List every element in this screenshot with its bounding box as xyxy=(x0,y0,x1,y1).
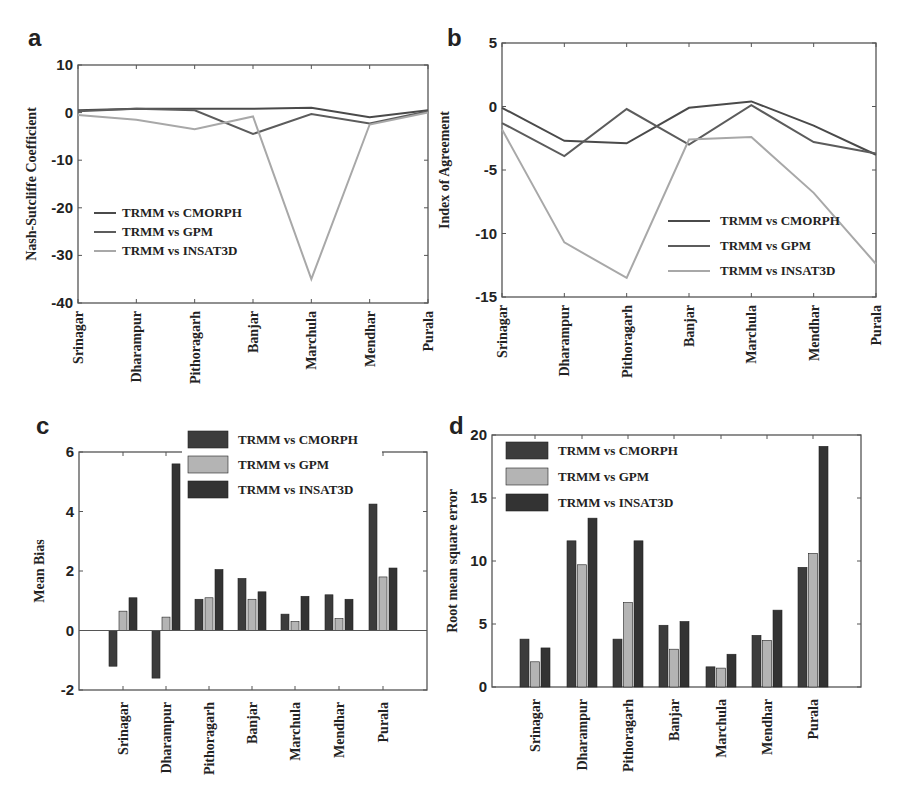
y-tick-label: -40 xyxy=(51,294,73,311)
y-tick-label: 0 xyxy=(489,98,497,115)
x-category-label-srinagar: Srinagar xyxy=(71,311,86,364)
x-category-label-banjar: Banjar xyxy=(667,699,682,741)
panel-b-index-of-agreement: b 50-5-10-15Index of AgreementSrinagarDh… xyxy=(451,0,902,400)
bar-trmm-vs-insat3d-pithoragarh xyxy=(215,570,223,631)
y-tick-label: -20 xyxy=(51,199,73,216)
bar-trmm-vs-gpm-banjar xyxy=(248,599,256,630)
bar-trmm-vs-cmorph-pithoragarh xyxy=(613,639,622,687)
bar-trmm-vs-insat3d-banjar xyxy=(258,592,266,631)
y-tick-label: 5 xyxy=(479,615,487,632)
x-category-label-mendhar: Mendhar xyxy=(760,699,775,755)
x-category-label-marchula: Marchula xyxy=(714,699,729,758)
x-category-label-marchula: Marchula xyxy=(288,702,303,761)
bar-trmm-vs-cmorph-srinagar xyxy=(109,631,117,667)
x-category-label-dharampur: Dharampur xyxy=(159,702,174,774)
bar-trmm-vs-cmorph-banjar xyxy=(659,625,668,687)
x-category-label-srinagar: Srinagar xyxy=(495,305,510,358)
y-axis-title: Nash-Sutcliffe Coefficient xyxy=(24,107,39,261)
x-category-label-pithoragarh: Pithoragarh xyxy=(188,311,203,384)
legend-swatch-trmm-vs-gpm xyxy=(506,468,548,485)
x-category-label-dharampur: Dharampur xyxy=(575,699,590,771)
bar-trmm-vs-gpm-dharampur xyxy=(162,617,170,630)
panel-c-mean-bias: c 6420-2Mean BiasSrinagarDharampurPithor… xyxy=(0,410,451,812)
bar-trmm-vs-gpm-pithoragarh xyxy=(205,598,213,631)
y-tick-label: -5 xyxy=(484,161,497,178)
y-axis-title: Root mean square error xyxy=(445,489,460,633)
x-category-label-banjar: Banjar xyxy=(682,305,697,347)
legend-label-trmm-vs-insat3d: TRMM vs INSAT3D xyxy=(720,263,835,278)
bar-trmm-vs-gpm-dharampur xyxy=(578,565,587,687)
line-chart-nash-sutcliffe: 100-10-20-30-40Nash-Sutcliffe Coefficien… xyxy=(0,0,451,400)
bar-trmm-vs-insat3d-dharampur xyxy=(588,518,597,687)
bar-trmm-vs-cmorph-marchula xyxy=(706,667,715,687)
bar-trmm-vs-cmorph-pithoragarh xyxy=(195,599,203,630)
series-line-trmm-vs-cmorph xyxy=(502,101,876,154)
bar-trmm-vs-cmorph-srinagar xyxy=(520,639,529,687)
y-tick-label: 5 xyxy=(489,34,497,51)
bar-trmm-vs-insat3d-purala xyxy=(389,568,397,630)
legend-swatch-trmm-vs-insat3d xyxy=(188,481,228,498)
legend-swatch-trmm-vs-cmorph xyxy=(188,431,228,448)
legend-label-trmm-vs-insat3d: TRMM vs INSAT3D xyxy=(238,482,353,497)
legend-label-trmm-vs-insat3d: TRMM vs INSAT3D xyxy=(122,243,237,258)
bar-trmm-vs-gpm-mendhar xyxy=(763,640,772,687)
x-category-label-dharampur: Dharampur xyxy=(129,311,144,383)
y-tick-label: 0 xyxy=(66,622,74,639)
legend-label-trmm-vs-cmorph: TRMM vs CMORPH xyxy=(720,213,840,228)
bar-trmm-vs-insat3d-srinagar xyxy=(129,598,137,631)
bar-trmm-vs-gpm-pithoragarh xyxy=(624,603,633,687)
bar-trmm-vs-cmorph-marchula xyxy=(281,614,289,630)
x-category-label-mendhar: Mendhar xyxy=(807,305,822,361)
plot-frame xyxy=(502,43,876,297)
x-category-label-mendhar: Mendhar xyxy=(363,311,378,367)
y-tick-label: 0 xyxy=(479,678,487,695)
bar-trmm-vs-cmorph-mendhar xyxy=(752,635,761,687)
series-line-trmm-vs-gpm xyxy=(502,105,876,156)
legend-label-trmm-vs-cmorph: TRMM vs CMORPH xyxy=(122,205,242,220)
bar-trmm-vs-gpm-srinagar xyxy=(119,611,127,630)
bar-trmm-vs-gpm-purala xyxy=(809,553,818,687)
y-tick-label: 10 xyxy=(56,56,73,73)
y-tick-label: -10 xyxy=(51,151,73,168)
bar-trmm-vs-cmorph-purala xyxy=(798,567,807,687)
plot-frame xyxy=(78,65,428,303)
bar-trmm-vs-gpm-marchula xyxy=(291,622,299,631)
x-category-label-marchula: Marchula xyxy=(744,305,759,364)
bar-trmm-vs-gpm-marchula xyxy=(717,668,726,687)
y-tick-label: 2 xyxy=(66,562,74,579)
x-category-label-purala: Purala xyxy=(421,311,436,351)
bar-trmm-vs-insat3d-purala xyxy=(819,446,828,687)
line-chart-index-of-agreement: 50-5-10-15Index of AgreementSrinagarDhar… xyxy=(451,0,902,400)
x-category-label-purala: Purala xyxy=(806,699,821,739)
x-category-label-marchula: Marchula xyxy=(304,311,319,370)
bar-trmm-vs-gpm-srinagar xyxy=(531,662,540,687)
bar-trmm-vs-cmorph-dharampur xyxy=(152,631,160,679)
bar-trmm-vs-insat3d-banjar xyxy=(680,621,689,687)
bar-trmm-vs-insat3d-mendhar xyxy=(345,599,353,630)
panel-a-nash-sutcliffe: a 100-10-20-30-40Nash-Sutcliffe Coeffici… xyxy=(0,0,451,400)
bar-trmm-vs-gpm-banjar xyxy=(670,649,679,687)
y-tick-label: 4 xyxy=(66,503,75,520)
y-tick-label: -2 xyxy=(61,681,74,698)
legend-swatch-trmm-vs-gpm xyxy=(188,456,228,473)
bar-trmm-vs-insat3d-srinagar xyxy=(541,648,550,687)
bar-trmm-vs-insat3d-pithoragarh xyxy=(634,541,643,687)
legend-label-trmm-vs-gpm: TRMM vs GPM xyxy=(122,224,213,239)
bar-trmm-vs-cmorph-dharampur xyxy=(567,541,576,687)
legend-label-trmm-vs-cmorph: TRMM vs CMORPH xyxy=(558,443,678,458)
legend-swatch-trmm-vs-cmorph xyxy=(506,442,548,459)
x-category-label-pithoragarh: Pithoragarh xyxy=(621,699,636,772)
y-tick-label: 15 xyxy=(470,489,487,506)
legend-label-trmm-vs-gpm: TRMM vs GPM xyxy=(720,238,811,253)
y-tick-label: -30 xyxy=(51,246,73,263)
bar-trmm-vs-cmorph-banjar xyxy=(238,578,246,630)
y-tick-label: 20 xyxy=(470,426,487,443)
y-tick-label: 10 xyxy=(470,552,487,569)
bar-trmm-vs-gpm-purala xyxy=(379,577,387,631)
series-line-trmm-vs-gpm xyxy=(78,109,428,134)
bar-trmm-vs-cmorph-purala xyxy=(369,504,377,630)
bar-trmm-vs-insat3d-dharampur xyxy=(172,464,180,631)
bar-trmm-vs-insat3d-marchula xyxy=(727,654,736,687)
x-category-label-srinagar: Srinagar xyxy=(528,699,543,752)
x-category-label-pithoragarh: Pithoragarh xyxy=(620,305,635,378)
